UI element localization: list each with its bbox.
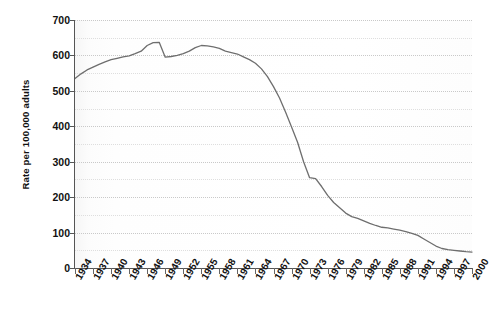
y-tick-label: 300 (38, 156, 70, 168)
y-tick-mark (70, 233, 74, 234)
y-tick-label: 600 (38, 49, 70, 61)
y-tick-label: 500 (38, 85, 70, 97)
y-tick-label: 700 (38, 14, 70, 26)
y-tick-mark (70, 126, 74, 127)
y-tick-mark (70, 162, 74, 163)
y-tick-mark (70, 55, 74, 56)
y-axis-title-text: Rate per 100,000 adults (20, 79, 31, 189)
y-tick-label: 200 (38, 191, 70, 203)
line-chart: Rate per 100,000 adults 0100200300400500… (0, 0, 502, 312)
y-tick-label: 400 (38, 120, 70, 132)
y-axis-line (74, 20, 75, 269)
y-tick-label: 100 (38, 227, 70, 239)
y-tick-mark (70, 197, 74, 198)
y-axis-title: Rate per 100,000 adults (14, 0, 36, 268)
plot-area (75, 20, 472, 268)
y-tick-mark (70, 268, 74, 269)
y-tick-label: 0 (38, 262, 70, 274)
data-series-line (75, 20, 472, 268)
x-tick-label: 2000 (470, 257, 491, 282)
y-axis-ticks: 0100200300400500600700 (36, 20, 70, 268)
y-tick-mark (70, 91, 74, 92)
y-tick-mark (70, 20, 74, 21)
